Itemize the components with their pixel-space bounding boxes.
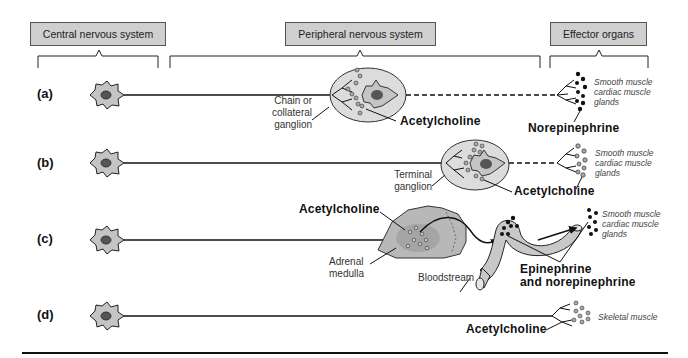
row-label-c: (c) — [37, 231, 53, 246]
pns-bracket — [170, 50, 540, 68]
adrenal-medulla-label: Adrenal medulla — [329, 256, 364, 280]
header-cns: Central nervous system — [30, 22, 166, 46]
effector-label-a: Smooth muscle cardiac muscle glands — [594, 77, 653, 107]
acetylcholine-label-d: Acetylcholine — [466, 323, 547, 336]
row-label-a: (a) — [37, 86, 53, 101]
effector-label-d: Skeletal muscle — [598, 312, 658, 322]
bloodstream-label: Bloodstream — [418, 272, 474, 284]
effector-bracket — [550, 50, 648, 68]
row-b-pathway — [90, 140, 587, 192]
effector-label-b: Smooth muscle cardiac muscle glands — [595, 148, 654, 178]
autonomic-pathways-diagram — [0, 0, 688, 358]
row-a-pathway — [90, 68, 587, 122]
header-pns: Peripheral nervous system — [285, 22, 436, 46]
cns-neuron-icon — [90, 149, 124, 177]
ganglion-label-b: Terminal ganglion — [390, 169, 432, 193]
row-label-b: (b) — [37, 155, 54, 170]
acetylcholine-label-c: Acetylcholine — [299, 203, 380, 216]
cns-neuron-icon — [90, 81, 124, 109]
hormone-label-c: Epinephrine and norepinephrine — [520, 263, 636, 289]
effector-label-c: Smooth muscle cardiac muscle glands — [602, 209, 661, 239]
row-label-d: (d) — [37, 307, 54, 322]
header-effector: Effector organs — [550, 22, 647, 46]
cns-bracket — [38, 50, 158, 68]
ganglion-label-a: Chain or collateral ganglion — [266, 95, 312, 131]
acetylcholine-label-a: Acetylcholine — [400, 115, 481, 128]
cns-neuron-icon — [90, 226, 124, 254]
cns-neuron-icon — [90, 302, 124, 330]
acetylcholine-label-b: Acetylcholine — [514, 185, 595, 198]
norepinephrine-label-a: Norepinephrine — [528, 122, 619, 135]
